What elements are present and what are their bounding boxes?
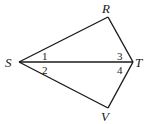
- kite-diagram: R S T V 1 2 3 4: [0, 0, 147, 124]
- angle-label-1: 1: [42, 50, 48, 62]
- point-label-V: V: [101, 109, 111, 124]
- point-label-R: R: [101, 1, 110, 16]
- angle-label-2: 2: [42, 64, 48, 76]
- angle-label-3: 3: [117, 50, 123, 62]
- segment-SR: [19, 17, 108, 62]
- point-label-T: T: [135, 55, 143, 70]
- angle-label-4: 4: [117, 64, 123, 76]
- point-label-S: S: [5, 55, 12, 70]
- segment-SV: [19, 62, 108, 108]
